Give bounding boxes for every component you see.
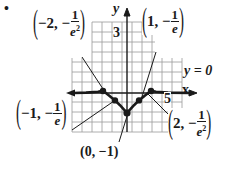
label-point-neg1: (−1, −1e) <box>16 100 67 127</box>
label-point-neg2: (−2, −1e2) <box>33 8 85 38</box>
curve-left-arrow-icon <box>66 90 75 97</box>
label-point-2: (2, −1e2) <box>168 108 211 138</box>
point-neg1 <box>112 97 118 103</box>
y-axis-arrow-icon <box>124 8 130 16</box>
point-0 <box>123 109 130 116</box>
point-1 <box>136 97 142 103</box>
x-axis-arrow-icon <box>189 90 197 96</box>
x-axis-label: x <box>182 83 189 97</box>
y-tick-label: 3 <box>113 26 120 40</box>
point-neg2 <box>100 88 106 94</box>
label-point-0: (0, −1) <box>80 145 118 159</box>
point-2 <box>148 88 154 94</box>
label-point-1: (1, −1e) <box>142 8 184 35</box>
y-axis-label: y <box>113 2 119 16</box>
asymptote-label: y = 0 <box>184 64 212 78</box>
